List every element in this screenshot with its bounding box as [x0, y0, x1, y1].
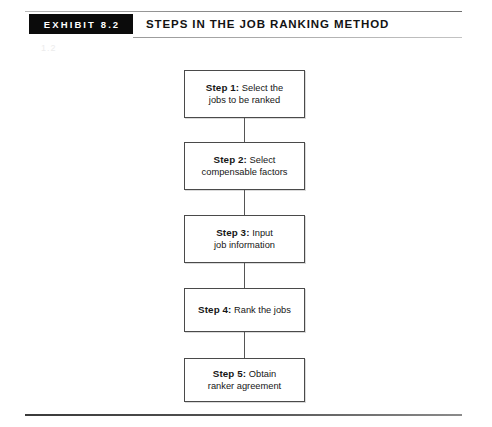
flowchart-step-1-line1: Select the: [239, 83, 283, 93]
flowchart-step-4-line1: Rank the jobs: [231, 305, 290, 315]
flowchart-step-2-line2: compensable factors: [202, 167, 288, 177]
flowchart-step-4-text: Step 4: Rank the jobs: [192, 304, 297, 317]
flowchart-step-5: Step 5: Obtain ranker agreement: [184, 358, 305, 402]
flowchart-step-1-line2: jobs to be ranked: [209, 95, 280, 105]
flowchart-step-4-label: Step 4:: [198, 304, 231, 315]
flowchart-step-3-text: Step 3: Input job information: [208, 227, 281, 252]
flowchart-step-5-label: Step 5:: [213, 368, 246, 379]
flowchart-step-3: Step 3: Input job information: [184, 215, 305, 263]
flowchart-step-3-line2: job information: [214, 240, 275, 250]
flowchart-step-1-text: Step 1: Select the jobs to be ranked: [200, 82, 289, 107]
flowchart-step-5-text: Step 5: Obtain ranker agreement: [202, 368, 287, 393]
flowchart-step-5-line1: Obtain: [246, 369, 276, 379]
connector-4-5: [244, 332, 245, 358]
flowchart-step-4: Step 4: Rank the jobs: [184, 288, 305, 332]
flowchart-step-1: Step 1: Select the jobs to be ranked: [184, 70, 305, 118]
flowchart-step-5-line2: ranker agreement: [208, 381, 281, 391]
job-ranking-flowchart: Step 1: Select the jobs to be ranked Ste…: [0, 0, 492, 427]
flowchart-step-2: Step 2: Select compensable factors: [184, 142, 305, 190]
flowchart-step-3-label: Step 3:: [216, 227, 249, 238]
flowchart-step-2-label: Step 2:: [214, 154, 247, 165]
footer-rule: [25, 414, 462, 416]
flowchart-step-1-label: Step 1:: [206, 82, 239, 93]
flowchart-step-2-text: Step 2: Select compensable factors: [196, 154, 294, 179]
connector-2-3: [244, 190, 245, 215]
flowchart-step-2-line1: Select: [247, 155, 275, 165]
connector-3-4: [244, 263, 245, 288]
flowchart-step-3-line1: Input: [250, 228, 273, 238]
connector-1-2: [244, 118, 245, 142]
